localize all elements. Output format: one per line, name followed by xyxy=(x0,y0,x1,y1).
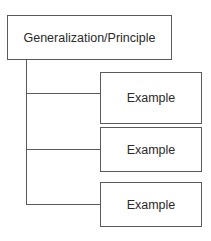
example-label: Example xyxy=(127,198,176,212)
trunk-connector xyxy=(26,59,27,205)
principle-box: Generalization/Principle xyxy=(7,15,172,60)
principle-label: Generalization/Principle xyxy=(23,31,155,45)
branch-connector-2 xyxy=(26,149,101,150)
example-label: Example xyxy=(127,143,176,157)
example-box-2: Example xyxy=(100,127,202,172)
branch-connector-1 xyxy=(26,93,101,94)
example-box-3: Example xyxy=(100,182,202,227)
example-label: Example xyxy=(127,91,176,105)
branch-connector-3 xyxy=(26,204,101,205)
example-box-1: Example xyxy=(100,72,202,124)
